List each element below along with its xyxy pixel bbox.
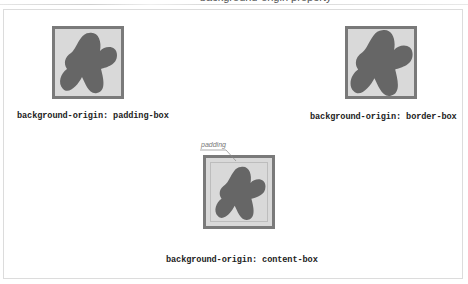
blob-shape-icon <box>211 163 269 223</box>
demo-box-content-box <box>203 155 275 229</box>
demo-box-padding-box <box>52 26 124 99</box>
label-border-box: background-origin: border-box <box>310 112 457 122</box>
top-divider-right <box>150 4 468 5</box>
label-padding-box: background-origin: padding-box <box>17 111 169 121</box>
top-divider-left <box>0 4 150 5</box>
clipped-caption-text: background-origin property <box>200 0 331 3</box>
border-overlay <box>345 26 417 99</box>
blob-shape-icon <box>55 29 121 96</box>
padding-callout-label: padding <box>201 141 226 148</box>
label-content-box: background-origin: content-box <box>166 255 318 265</box>
